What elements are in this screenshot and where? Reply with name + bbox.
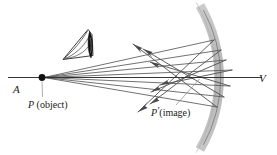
object-leader-line	[42, 82, 43, 98]
incident-ray-3	[44, 60, 226, 78]
label-mirror-vertex-v: V	[259, 73, 266, 84]
label-image-text: (image)	[159, 107, 190, 118]
label-axis-point-a: A	[13, 84, 20, 95]
incident-ray-7	[44, 78, 217, 108]
label-image: P′(image)	[151, 106, 190, 118]
eye-icon	[63, 30, 93, 60]
arrowhead-down-1	[138, 103, 148, 112]
ray-diagram-canvas	[0, 0, 277, 155]
label-object-text: (object)	[37, 99, 68, 110]
incident-ray-6	[44, 78, 224, 98]
label-object: P (object)	[28, 100, 68, 110]
object-point-dot	[39, 74, 46, 81]
arrowhead-up-2	[143, 49, 153, 57]
arrowhead-down-4	[160, 78, 170, 85]
optics-figure: A V P (object) P′(image)	[0, 0, 277, 155]
arrowhead-up-1	[133, 44, 142, 53]
incident-ray-5	[44, 78, 230, 87]
